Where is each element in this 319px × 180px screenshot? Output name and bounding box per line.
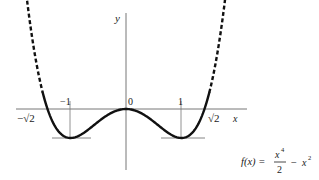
formula-denominator: 2 <box>277 164 282 175</box>
formula-term-exp: 2 <box>308 154 311 161</box>
x-axis-label: x <box>232 113 238 124</box>
function-formula: f(x) = x 4 2 − x 2 <box>241 146 311 175</box>
function-curve-dashed-left <box>18 0 43 93</box>
formula-numerator: x <box>274 149 280 160</box>
formula-minus: − <box>291 157 297 168</box>
y-axis-label: y <box>114 12 120 24</box>
function-curve-dashed-right <box>209 0 234 93</box>
tick-label-minus-sqrt2: −√2 <box>17 112 35 124</box>
formula-term: x <box>301 157 307 168</box>
formula-numerator-exp: 4 <box>281 146 285 153</box>
tick-label-minus-1: −1 <box>60 96 71 107</box>
tick-label-sqrt2: √2 <box>208 112 220 124</box>
tick-label-0: 0 <box>128 96 133 107</box>
formula-lhs: f(x) = <box>241 156 265 168</box>
tick-label-1: 1 <box>178 96 183 107</box>
function-plot: y x −1 0 1 −√2 √2 f(x) = x 4 2 − x 2 <box>0 0 319 180</box>
